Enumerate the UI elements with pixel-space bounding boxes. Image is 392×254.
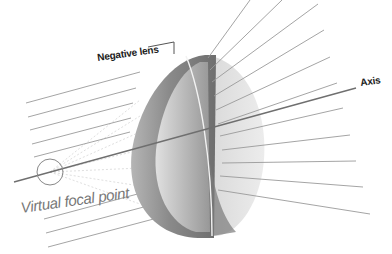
negative-lens — [131, 55, 264, 238]
incoming-ray — [26, 72, 140, 103]
outgoing-ray — [208, 0, 250, 58]
incoming-ray — [30, 103, 133, 130]
virtual-ray-trace — [50, 116, 140, 172]
outgoing-ray — [210, 0, 282, 70]
diagram-canvas — [0, 0, 392, 254]
incoming-ray — [34, 132, 130, 157]
incoming-ray — [28, 88, 136, 117]
negative-lens-diagram: Negative lens Axis Virtual focal point — [0, 0, 392, 254]
virtual-ray-trace — [50, 132, 140, 172]
